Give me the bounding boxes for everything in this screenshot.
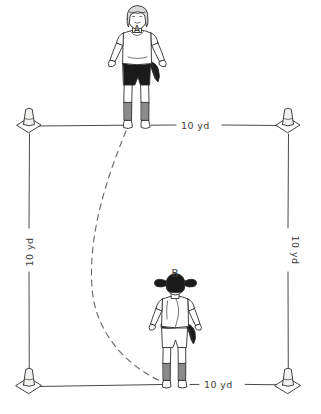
player-a-hand-right [160, 60, 167, 67]
player-a-sock-left [124, 102, 132, 120]
field-line-bottom-left-segment [38, 385, 162, 387]
cone-bottom-left [16, 368, 42, 393]
player-a-sock-right [141, 102, 149, 120]
player-b-arm-left [151, 309, 162, 326]
player-a-shorts [123, 63, 151, 85]
field-line-top-left-segment [38, 125, 124, 126]
diagram-canvas: 10 yd 10 yd 10 yd 10 yd [0, 0, 321, 414]
player-a-leg-left [124, 84, 132, 102]
player-a-arm-right [152, 43, 165, 62]
dashed-running-path [91, 131, 165, 383]
field-line-top-right-segment [222, 125, 279, 126]
player-b-shoe-left [162, 380, 171, 388]
player-b-arm-right [189, 309, 200, 326]
distance-labels: 10 yd 10 yd 10 yd 10 yd [24, 120, 301, 391]
cone-top-left [17, 108, 41, 132]
player-b-pigtail-right [185, 279, 197, 287]
player-a-hand-left [108, 60, 115, 67]
label-left-distance: 10 yd [24, 238, 35, 267]
player-b [149, 274, 201, 389]
player-a-arm-left [110, 43, 123, 62]
field-line-left-upper-segment [29, 134, 30, 228]
cone-top-right [276, 108, 300, 132]
player-a-leg-right [141, 84, 149, 102]
player-b-hand-right [196, 324, 202, 330]
player-b-label: B [171, 268, 178, 279]
player-b-top [162, 296, 189, 328]
player-b-pigtail-left [154, 279, 166, 287]
player-b-leg-right [178, 347, 185, 363]
cone-bottom-right [275, 368, 301, 393]
label-right-distance: 10 yd [290, 236, 301, 265]
player-b-hand-left [149, 324, 155, 330]
player-a-shoe-right [141, 120, 150, 129]
player-b-shoe-right [178, 380, 187, 388]
label-top-distance: 10 yd [181, 120, 210, 131]
field-line-right-upper-segment [288, 134, 289, 228]
field-lines [29, 125, 289, 387]
player-a-label: A [133, 24, 140, 35]
player-b-sock-right [179, 363, 186, 380]
player-a-shoe-left [123, 120, 132, 129]
player-b-sock-left [163, 363, 170, 380]
player-a-top [123, 30, 152, 65]
run-path [91, 131, 165, 383]
label-bottom-distance: 10 yd [204, 379, 233, 390]
player-b-shorts [162, 328, 188, 348]
player-b-leg-left [163, 347, 171, 363]
